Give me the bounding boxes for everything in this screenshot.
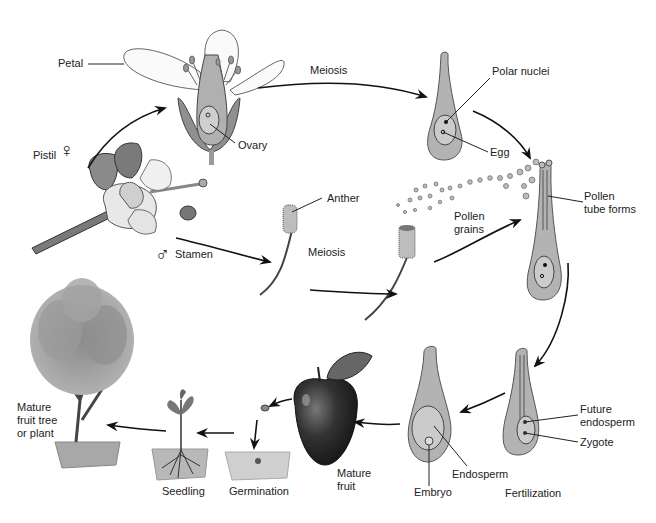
label-pollen-grains: Pollen grains (454, 210, 485, 236)
label-pistil: Pistil (33, 149, 56, 162)
seedling (152, 389, 208, 480)
embryo-sac (428, 52, 490, 160)
female-symbol-icon: ♀ (59, 140, 74, 160)
germination-soil (225, 405, 290, 480)
label-pollen-tube-forms: Pollen tube forms (584, 190, 636, 216)
pollen-grains-cloud (397, 159, 540, 214)
pollen-tube-structure (527, 160, 583, 300)
label-ovary: Ovary (238, 139, 267, 152)
fertilization-structure (503, 348, 578, 455)
label-mature-fruit: Mature fruit (337, 467, 371, 493)
label-embryo: Embryo (414, 486, 452, 499)
label-egg: Egg (490, 146, 510, 159)
apple-mature-fruit (294, 352, 372, 465)
label-polar-nuclei: Polar nuclei (492, 65, 549, 78)
life-cycle-diagram: Petal Ovary Pistil ♀ ♂ Stamen Meiosis Me… (0, 0, 656, 523)
label-meiosis-top: Meiosis (310, 64, 347, 77)
label-meiosis-bottom: Meiosis (308, 246, 345, 259)
label-zygote: Zygote (580, 436, 614, 449)
embryo-endosperm-structure (408, 346, 467, 486)
label-mature-tree: Mature fruit tree or plant (17, 401, 57, 440)
male-symbol-icon: ♂ (155, 244, 170, 264)
label-fertilization: Fertilization (505, 487, 561, 500)
label-future-endosperm: Future endosperm (580, 403, 635, 429)
label-stamen: Stamen (175, 248, 213, 261)
stamen-anther-right (365, 225, 415, 320)
label-seedling: Seedling (162, 485, 205, 498)
label-anther: Anther (327, 192, 359, 205)
label-endosperm: Endosperm (452, 468, 508, 481)
label-petal: Petal (58, 57, 83, 70)
label-germination: Germination (229, 485, 289, 498)
diagram-artwork (0, 0, 656, 523)
